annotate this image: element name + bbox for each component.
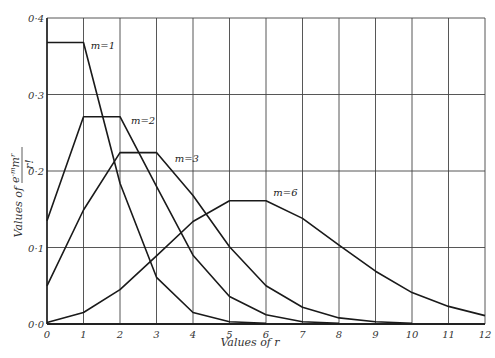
x-tick-label: 9 bbox=[372, 329, 379, 340]
grid-lines bbox=[47, 18, 485, 324]
x-tick-label: 8 bbox=[336, 329, 342, 340]
x-tick-label: 2 bbox=[116, 329, 123, 340]
x-tick-label: 0 bbox=[44, 329, 51, 340]
curve-label: m=2 bbox=[131, 115, 155, 126]
x-tick-label: 7 bbox=[299, 329, 306, 340]
x-axis-label: Values of r bbox=[220, 336, 280, 349]
svg-text:r!: r! bbox=[23, 159, 36, 169]
x-tick-label: 4 bbox=[189, 329, 196, 340]
y-tick-label: 0·4 bbox=[28, 13, 44, 24]
x-tick-label: 12 bbox=[479, 329, 492, 340]
x-tick-label: 3 bbox=[153, 329, 159, 340]
y-axis-ticks: 0·00·10·20·30·4 bbox=[28, 13, 45, 330]
curve-label: m=6 bbox=[273, 187, 298, 198]
curve-label: m=3 bbox=[175, 153, 199, 164]
curve-label: m=1 bbox=[91, 40, 115, 51]
ylabel-numerator: e-mmr bbox=[9, 153, 22, 183]
y-tick-label: 0·0 bbox=[28, 319, 45, 330]
y-tick-label: 0·3 bbox=[28, 90, 44, 101]
y-tick-label: 0·1 bbox=[28, 243, 44, 254]
svg-text:Values of: Values of bbox=[12, 185, 25, 237]
y-axis-label: Values of e-mmr r! bbox=[9, 147, 36, 237]
x-tick-label: 11 bbox=[442, 329, 455, 340]
x-tick-label: 1 bbox=[80, 329, 86, 340]
poisson-chart: 0123456789101112 0·00·10·20·30·4 m=1m=2m… bbox=[0, 0, 495, 358]
x-tick-label: 10 bbox=[406, 329, 419, 340]
